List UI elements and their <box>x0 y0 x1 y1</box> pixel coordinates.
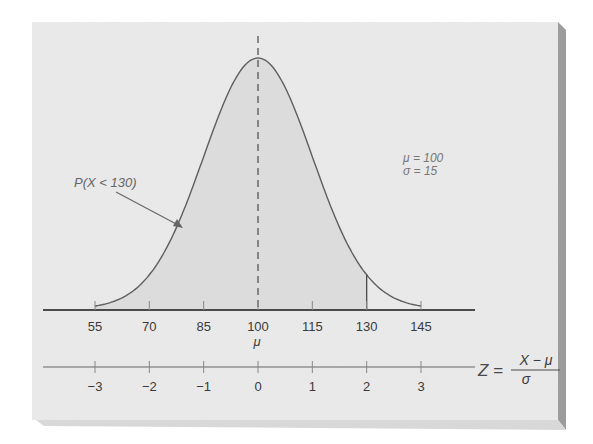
z-formula-lhs: Z = <box>477 361 503 380</box>
normal-distribution-figure: 557085100115130145 μ −3−2−10123 Z = X − … <box>0 0 593 444</box>
mean-symbol-label: μ <box>252 334 260 349</box>
x-tick-label: 130 <box>356 319 378 334</box>
z-tick-label: 2 <box>363 379 370 394</box>
x-tick-label: 100 <box>247 319 269 334</box>
mean-param-label: μ = 100 <box>402 151 444 165</box>
x-tick-label: 145 <box>410 319 432 334</box>
x-tick-label: 70 <box>142 319 156 334</box>
z-tick-label: 3 <box>417 379 424 394</box>
x-tick-label: 115 <box>302 319 323 334</box>
sd-param-label: σ = 15 <box>403 164 438 178</box>
z-formula-denominator: σ <box>522 371 531 387</box>
probability-label: P(X < 130) <box>74 175 137 190</box>
x-tick-label: 55 <box>88 319 102 334</box>
z-tick-label: −2 <box>142 379 157 394</box>
x-tick-label: 85 <box>196 319 210 334</box>
z-tick-label: 1 <box>309 379 316 394</box>
z-formula-numerator: X − μ <box>519 352 553 368</box>
z-tick-label: −1 <box>196 379 211 394</box>
z-tick-label: −3 <box>88 379 103 394</box>
z-tick-label: 0 <box>254 379 261 394</box>
